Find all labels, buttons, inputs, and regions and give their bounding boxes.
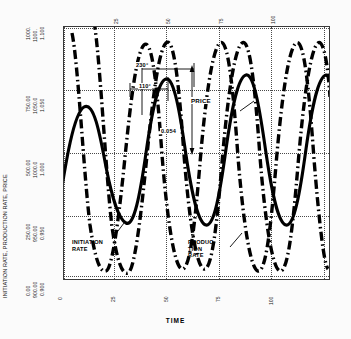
price-leader-line	[240, 101, 254, 111]
y-tick-prod-1: 1050.0	[32, 98, 38, 115]
y-tick-price-0: 1.100	[39, 26, 45, 40]
x-axis-title: TIME	[0, 317, 351, 324]
top-tick-2: 75	[218, 18, 224, 24]
x-tick-75: 75	[215, 296, 221, 302]
annotation-production-rate-line1: PRODUC-	[188, 239, 216, 246]
figure-canvas: INITIATION RATE, PRODUCTION RATE, PRICE …	[0, 0, 351, 339]
y-tick-prod-4: 900.00	[32, 282, 38, 299]
y-tick-init-0: 1000.	[25, 26, 31, 40]
top-tick-1: 50	[165, 18, 171, 24]
production-leader-line	[230, 233, 242, 247]
y-tick-init-1: 750.00	[25, 96, 31, 113]
x-tick-0: 0	[57, 297, 63, 300]
annotation-phase-230: 230°	[135, 62, 149, 68]
y-tick-price-1: 1.050	[39, 98, 45, 112]
y-tick-init-3: 250.00	[25, 224, 31, 241]
y-tick-price-2: 1.000	[39, 162, 45, 176]
y-tick-price-4: 0.900	[39, 282, 45, 296]
x-tick-50: 50	[163, 296, 169, 302]
annotation-production-rate: PRODUC- TION RATE	[188, 239, 216, 259]
annotation-amplitude: 0.054	[160, 128, 177, 134]
annotation-production-rate-line3: RATE	[188, 252, 216, 259]
y-tick-price-3: 0.950	[39, 226, 45, 240]
annotation-phase-110: 110°	[138, 83, 152, 89]
x-tick-25: 25	[110, 296, 116, 302]
top-tick-3: 100	[270, 16, 276, 24]
annotation-price-label: PRICE	[190, 97, 212, 104]
y-tick-init-2: 500.00	[25, 160, 31, 177]
y-tick-init-4: 0.00	[25, 285, 31, 296]
annotation-initiation-rate-line1: INITIATION	[72, 239, 103, 246]
y-tick-prod-2: 1000.0	[32, 162, 38, 179]
y-tick-prod-0: 1100.	[32, 29, 38, 42]
series-initiation-rate-path	[94, 27, 329, 273]
plot-area: 230° 110° 0.054 PRICE INITIATION RATE PR…	[63, 26, 330, 280]
y-tick-prod-3: 950.00	[32, 226, 38, 243]
amplitude-arrow-down	[190, 148, 195, 155]
x-tick-100: 100	[268, 297, 274, 305]
annotation-initiation-rate-line2: RATE	[72, 246, 103, 253]
y-axis-title: INITIATION RATE, PRODUCTION RATE, PRICE	[2, 174, 8, 298]
series-production-rate-path	[72, 33, 328, 271]
annotation-initiation-rate: INITIATION RATE	[72, 239, 103, 252]
top-tick-0: 25	[113, 18, 119, 24]
